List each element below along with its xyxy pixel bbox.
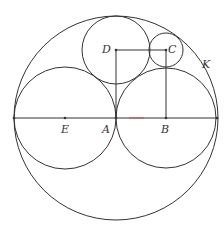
- point-right-end: [216, 117, 219, 120]
- point-a: [115, 117, 118, 120]
- point-d: [115, 49, 118, 52]
- label-b: B: [160, 123, 169, 136]
- point-left-end: [13, 117, 16, 120]
- label-a: A: [101, 123, 110, 136]
- point-e: [64, 117, 67, 120]
- geometry-diagram: E A B D C K: [0, 0, 224, 237]
- point-c: [165, 49, 168, 52]
- label-d: D: [101, 43, 111, 56]
- label-c: C: [168, 43, 177, 56]
- label-e: E: [60, 123, 69, 136]
- point-b: [165, 117, 168, 120]
- label-k: K: [201, 58, 211, 71]
